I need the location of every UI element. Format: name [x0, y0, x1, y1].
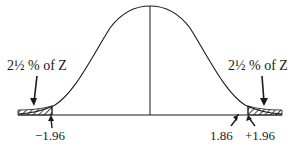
arrowhead-icon: [48, 115, 54, 121]
left-tail-label: 2½ % of Z: [7, 58, 67, 73]
right-tail-label: 2½ % of Z: [228, 58, 288, 73]
left-critical-label: −1.96: [35, 128, 66, 143]
right-critical-label: +1.96: [245, 128, 276, 143]
arrowhead-icon: [30, 98, 37, 106]
arrowhead-icon: [260, 98, 268, 106]
marked-value-label: 1.86: [210, 128, 233, 143]
normal-curve-diagram: 2½ % of Z 2½ % of Z −1.96 1.86 +1.96: [0, 0, 300, 149]
right-tail-region: [248, 106, 282, 115]
left-tail-region: [18, 106, 52, 115]
